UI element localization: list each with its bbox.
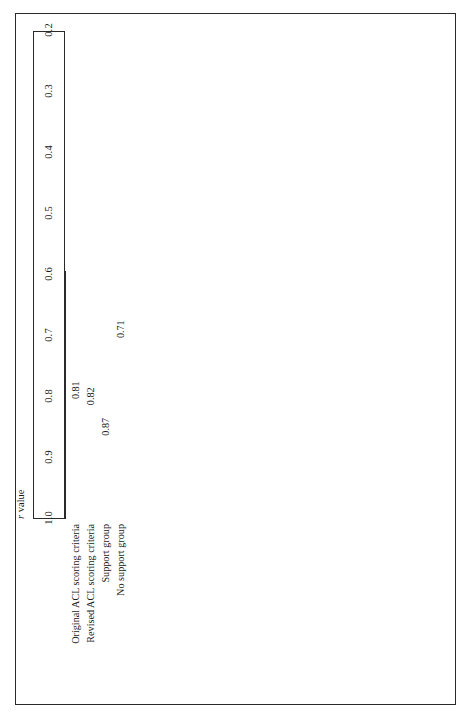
chart-plot-area: r value 1.00.90.80.70.60.50.40.30.2 Orig… — [16, 14, 457, 706]
chart-bar — [100, 440, 111, 519]
axis-title-r-value: r value — [15, 31, 26, 519]
bar-value-label: 0.71 — [115, 320, 125, 338]
chart-bar — [115, 342, 126, 519]
category-label: No support group — [115, 524, 125, 596]
chart-bar — [85, 409, 96, 519]
x-axis-scale-box: 1.00.90.80.70.60.50.40.30.2 — [33, 31, 65, 519]
figure-border: r value 1.00.90.80.70.60.50.40.30.2 Orig… — [15, 13, 456, 705]
chart-bar — [70, 403, 81, 519]
x-tick-label: 0.4 — [44, 145, 55, 159]
axis-title-r: r — [15, 515, 26, 519]
x-tick-label: 0.5 — [44, 206, 55, 220]
category-baseline — [65, 271, 66, 519]
x-tick-label: 0.9 — [44, 450, 55, 464]
bar-value-label: 0.82 — [85, 387, 95, 405]
axis-title-value: value — [15, 490, 26, 515]
chart-category-row: No support group0.71 — [113, 14, 128, 706]
x-tick-label: 0.7 — [44, 328, 55, 342]
category-label: Revised ACL scoring criteria — [85, 524, 95, 643]
chart-category-row: Original ACL scoring criteria0.81 — [68, 14, 83, 706]
category-label: Support group — [100, 524, 110, 583]
category-label: Original ACL scoring criteria — [70, 524, 80, 644]
category-rows: Original ACL scoring criteria0.81Revised… — [68, 14, 188, 706]
x-tick-label: 0.8 — [44, 389, 55, 403]
bar-value-label: 0.87 — [100, 418, 110, 436]
x-tick-label: 0.6 — [44, 267, 55, 281]
chart-category-row: Support group0.87 — [98, 14, 113, 706]
x-tick-label: 0.3 — [44, 84, 55, 98]
chart-category-row: Revised ACL scoring criteria0.82 — [83, 14, 98, 706]
x-tick-label: 1.0 — [44, 511, 55, 525]
bar-value-label: 0.81 — [70, 381, 80, 399]
x-tick-label: 0.2 — [44, 23, 55, 37]
